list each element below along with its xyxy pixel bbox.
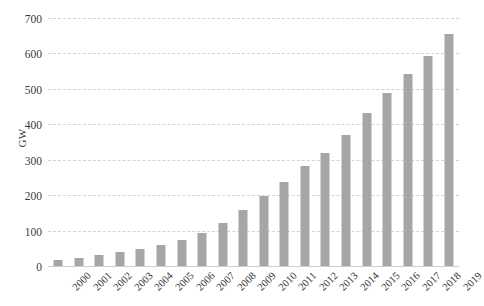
- bar[interactable]: [321, 153, 330, 266]
- bar[interactable]: [136, 249, 145, 266]
- bar-slot: [171, 18, 192, 266]
- bar-slot: [377, 18, 398, 266]
- x-tick-label: 2006: [194, 270, 217, 293]
- bar[interactable]: [177, 240, 186, 266]
- bar[interactable]: [218, 223, 227, 266]
- y-tick-label: 600: [25, 48, 42, 60]
- bar-slot: [212, 18, 233, 266]
- x-tick-label: 2000: [70, 270, 93, 293]
- bar-slot: [110, 18, 131, 266]
- y-tick-label: 300: [25, 155, 42, 167]
- bar[interactable]: [403, 74, 412, 266]
- bar[interactable]: [259, 196, 268, 266]
- y-tick-label: 400: [25, 119, 42, 131]
- bar[interactable]: [115, 252, 124, 266]
- axis-baseline: 0: [48, 266, 459, 267]
- bar-slot: [89, 18, 110, 266]
- bar[interactable]: [239, 210, 248, 266]
- bar-slot: [254, 18, 275, 266]
- bar-slot: [336, 18, 357, 266]
- y-tick-label: 500: [25, 84, 42, 96]
- y-tick-label: 100: [25, 226, 42, 238]
- y-tick-label: 700: [25, 13, 42, 25]
- x-tick-label: 2015: [379, 270, 402, 293]
- x-tick-label: 2018: [440, 270, 463, 293]
- x-tick-label: 2014: [358, 270, 381, 293]
- plot-area: 0100200300400500600700: [48, 18, 459, 266]
- x-tick-label: 2004: [153, 270, 176, 293]
- bar[interactable]: [383, 93, 392, 266]
- bar[interactable]: [74, 258, 83, 267]
- bar[interactable]: [300, 166, 309, 266]
- bar-slot: [438, 18, 459, 266]
- bar[interactable]: [424, 56, 433, 266]
- bar[interactable]: [362, 113, 371, 266]
- bar[interactable]: [95, 255, 104, 266]
- x-tick-label: 2007: [214, 270, 237, 293]
- y-tick-label: 0: [36, 261, 42, 273]
- bar-slot: [274, 18, 295, 266]
- x-tick-label: 2005: [173, 270, 196, 293]
- bar-slot: [192, 18, 213, 266]
- bar[interactable]: [280, 182, 289, 266]
- x-tick-label: 2002: [112, 270, 135, 293]
- bar-slot: [48, 18, 69, 266]
- bar[interactable]: [198, 233, 207, 266]
- x-tick-label: 2010: [276, 270, 299, 293]
- x-tick-label: 2019: [461, 270, 484, 293]
- x-tick-label: 2012: [317, 270, 340, 293]
- x-tick-label: 2008: [235, 270, 258, 293]
- bar-series: [48, 18, 459, 266]
- bar-slot: [151, 18, 172, 266]
- bar-slot: [397, 18, 418, 266]
- y-tick-label: 200: [25, 190, 42, 202]
- bar[interactable]: [341, 135, 350, 266]
- bar-slot: [69, 18, 90, 266]
- bar[interactable]: [157, 245, 166, 266]
- x-tick-label: 2009: [255, 270, 278, 293]
- bar-slot: [418, 18, 439, 266]
- x-tick-label: 2016: [399, 270, 422, 293]
- bar[interactable]: [54, 260, 63, 266]
- x-tick-label: 2011: [296, 270, 318, 292]
- bar-slot: [315, 18, 336, 266]
- bar-slot: [130, 18, 151, 266]
- x-tick-label: 2017: [420, 270, 443, 293]
- bar-slot: [233, 18, 254, 266]
- x-tick-label: 2003: [132, 270, 155, 293]
- bar-slot: [295, 18, 316, 266]
- bar-slot: [356, 18, 377, 266]
- x-tick-label: 2013: [338, 270, 361, 293]
- x-tick-label: 2001: [91, 270, 114, 293]
- bar[interactable]: [444, 34, 453, 266]
